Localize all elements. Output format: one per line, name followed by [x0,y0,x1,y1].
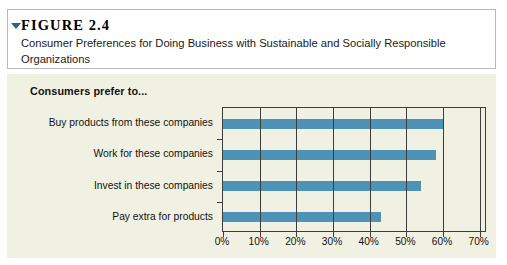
figure-caption-box: FIGURE 2.4 Consumer Preferences for Doin… [7,9,496,69]
x-axis-tick-label: 0% [215,236,230,247]
triangle-pointer-icon [11,23,21,29]
x-axis-tick-label: 40% [358,236,378,247]
bar-2 [223,150,436,160]
plot-area [222,107,486,232]
x-axis-tick-label: 60% [432,236,452,247]
bar-4 [223,212,381,222]
bar-rows [223,108,485,231]
bar-row [223,202,485,233]
bar-row [223,139,485,170]
x-axis-tick-label: 30% [322,236,342,247]
gridline [296,108,297,231]
category-axis-labels: Buy products from these companiesWork fo… [27,107,217,232]
gridline [480,108,481,231]
figure-root: FIGURE 2.4 Consumer Preferences for Doin… [0,0,507,265]
category-axis-tick [217,202,223,203]
chart-panel: Consumers prefer to... Buy products from… [7,74,496,258]
x-axis-tick-label: 50% [395,236,415,247]
x-axis-labels: 0%10%20%30%40%50%60%70% [222,236,486,250]
x-axis-tick-label: 10% [248,236,268,247]
gridline [443,108,444,231]
category-axis-tick [217,139,223,140]
x-axis-tick-label: 70% [468,236,488,247]
category-label: Invest in these companies [94,170,213,201]
x-axis-tick-label: 20% [285,236,305,247]
gridline [333,108,334,231]
bar-3 [223,181,421,191]
figure-title: Consumer Preferences for Doing Business … [21,36,485,67]
gridline [370,108,371,231]
category-label: Pay extra for products [112,201,213,232]
category-axis-tick [217,171,223,172]
chart-heading: Consumers prefer to... [30,85,147,97]
category-label: Buy products from these companies [49,107,213,138]
bar-row [223,171,485,202]
bar-row [223,108,485,139]
category-label: Work for these companies [94,138,213,169]
gridline [406,108,407,231]
gridline [260,108,261,231]
figure-number: FIGURE 2.4 [21,18,485,33]
